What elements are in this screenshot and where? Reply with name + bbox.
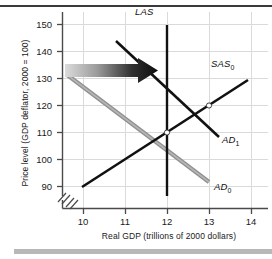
grid-horizontal <box>62 25 268 187</box>
y-tick-150: 150 <box>26 19 52 30</box>
x-tick-12: 12 <box>157 216 177 227</box>
x-tick-10: 10 <box>73 216 93 227</box>
curve-label-las: LAS <box>135 6 154 17</box>
curve-label-sas0-sub: 0 <box>231 64 235 71</box>
curve-label-ad0-sub: 0 <box>228 187 232 194</box>
figure-root: 150 140 130 120 110 100 90 10 11 12 13 1… <box>0 0 272 259</box>
x-tick-13: 13 <box>199 216 219 227</box>
curve-label-ad0: AD0 <box>214 181 232 194</box>
x-axis-title: Real GDP (trillions of 2000 dollars) <box>74 231 264 241</box>
curve-label-sas0: SAS0 <box>211 58 235 71</box>
curve-label-ad0-text: AD <box>214 181 228 192</box>
y-tick-marks <box>57 25 63 187</box>
curve-label-sas0-text: SAS <box>211 58 231 69</box>
x-tick-marks <box>84 209 252 215</box>
shift-arrow-icon <box>65 58 158 83</box>
curve-label-ad1-sub: 1 <box>236 140 240 147</box>
axis-break-marks <box>58 193 78 209</box>
curve-label-ad1-text: AD <box>222 134 236 145</box>
curve-label-ad1: AD1 <box>222 134 240 147</box>
curve-ad0 <box>66 74 209 182</box>
y-axis-title: Price level (GDP deflator, 2000 = 100) <box>20 33 30 193</box>
x-tick-11: 11 <box>115 216 135 227</box>
x-tick-14: 14 <box>241 216 261 227</box>
